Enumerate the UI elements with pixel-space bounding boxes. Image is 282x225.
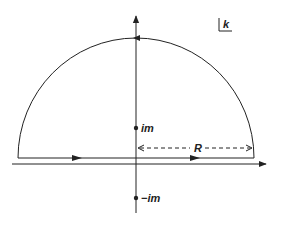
plane-label: k	[223, 18, 230, 30]
contour-diagram: im −im R k	[0, 0, 282, 225]
pole-lower-dot	[134, 196, 138, 200]
direction-arrow-left	[72, 155, 82, 161]
pole-upper-label: im	[141, 122, 154, 134]
pole-lower-label: −im	[141, 192, 160, 204]
direction-arrow-right	[190, 155, 200, 161]
radius-label: R	[194, 142, 202, 154]
pole-upper-dot	[134, 126, 138, 130]
